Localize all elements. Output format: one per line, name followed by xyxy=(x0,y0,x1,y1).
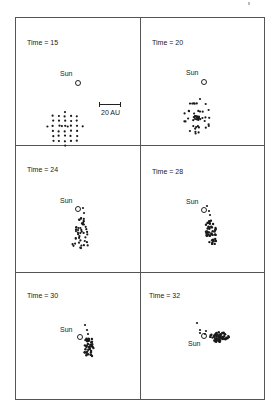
particle-dot xyxy=(52,115,54,117)
particle-dot xyxy=(208,231,210,233)
particle-clusters xyxy=(0,0,278,416)
particle-dot xyxy=(64,115,66,117)
particle-dot xyxy=(199,98,201,100)
particle-dot xyxy=(77,227,79,229)
particle-dot xyxy=(76,135,78,137)
particle-dot xyxy=(84,240,86,242)
particle-dot xyxy=(89,344,91,346)
particle-dot xyxy=(221,337,223,339)
particle-dot xyxy=(204,120,206,122)
particle-dot xyxy=(218,331,220,333)
particle-dot xyxy=(84,236,86,238)
particle-dot xyxy=(90,351,92,353)
particle-dot xyxy=(76,140,78,142)
particle-dot xyxy=(211,243,213,245)
particle-dot xyxy=(69,135,71,137)
particle-dot xyxy=(91,338,93,340)
particle-dot xyxy=(214,339,216,341)
particle-dot xyxy=(64,140,66,142)
particle-dot xyxy=(216,337,218,339)
particle-dot xyxy=(211,336,213,338)
particle-dot xyxy=(64,125,66,127)
particle-dot xyxy=(184,120,186,122)
particle-dot xyxy=(82,223,84,225)
particle-dot xyxy=(205,224,207,226)
particle-dot xyxy=(208,117,210,119)
particle-dot xyxy=(82,207,84,209)
particle-dot xyxy=(202,111,204,113)
particle-dot xyxy=(72,243,74,245)
particle-dot xyxy=(74,243,76,245)
particle-dot xyxy=(87,339,89,341)
particle-dot xyxy=(214,227,216,229)
particle-dot xyxy=(52,140,54,142)
particle-dot xyxy=(85,226,87,228)
particle-dot xyxy=(216,334,218,336)
particle-dot xyxy=(201,117,203,119)
particle-dot xyxy=(70,120,72,122)
particle-dot xyxy=(82,125,84,127)
particle-dot xyxy=(208,241,210,243)
particle-dot xyxy=(83,220,85,222)
particle-dot xyxy=(209,235,211,237)
particle-dot xyxy=(78,235,80,237)
particle-dot xyxy=(198,116,200,118)
particle-dot xyxy=(81,231,83,233)
particle-dot xyxy=(46,125,48,127)
particle-dot xyxy=(207,226,209,228)
particle-dot xyxy=(64,135,66,137)
particle-dot xyxy=(83,244,85,246)
particle-dot xyxy=(212,223,214,225)
particle-dot xyxy=(192,119,194,121)
particle-dot xyxy=(79,227,81,229)
particle-dot xyxy=(80,245,82,247)
particle-dot xyxy=(64,145,66,147)
particle-dot xyxy=(214,243,216,245)
particle-dot xyxy=(80,217,82,219)
particle-dot xyxy=(64,130,66,132)
particle-dot xyxy=(205,127,207,129)
particle-dot xyxy=(58,125,60,127)
particle-dot xyxy=(188,110,190,112)
particle-dot xyxy=(52,135,54,137)
particle-dot xyxy=(58,115,60,117)
particle-dot xyxy=(87,244,89,246)
particle-dot xyxy=(196,118,198,120)
particle-dot xyxy=(75,238,77,240)
particle-dot xyxy=(86,241,88,243)
particle-dot xyxy=(192,125,194,127)
particle-dot xyxy=(204,333,206,335)
particle-dot xyxy=(76,125,78,127)
particle-dot xyxy=(70,115,72,117)
particle-dot xyxy=(87,353,89,355)
particle-dot xyxy=(214,238,216,240)
particle-dot xyxy=(212,240,214,242)
particle-dot xyxy=(70,125,72,127)
particle-dot xyxy=(196,102,198,104)
particle-dot xyxy=(61,125,63,127)
particle-dot xyxy=(78,219,80,221)
figure: Time = 15 Sun 20 AU Time = 20 Sun Time =… xyxy=(0,0,278,416)
particle-dot xyxy=(86,231,88,233)
particle-dot xyxy=(218,336,220,338)
particle-dot xyxy=(77,229,79,231)
particle-dot xyxy=(208,109,210,111)
particle-dot xyxy=(208,123,210,125)
particle-dot xyxy=(91,341,93,343)
particle-dot xyxy=(84,351,86,353)
particle-dot xyxy=(52,125,54,127)
particle-dot xyxy=(52,120,54,122)
particle-dot xyxy=(199,329,201,331)
particle-dot xyxy=(83,212,85,214)
particle-dot xyxy=(76,115,78,117)
particle-dot xyxy=(84,348,86,350)
particle-dot xyxy=(210,225,212,227)
particle-dot xyxy=(64,120,66,122)
particle-dot xyxy=(52,130,54,132)
particle-dot xyxy=(64,111,66,113)
particle-dot xyxy=(205,103,207,105)
particle-dot xyxy=(205,234,207,236)
particle-dot xyxy=(211,234,213,236)
particle-dot xyxy=(83,232,85,234)
particle-dot xyxy=(83,218,85,220)
